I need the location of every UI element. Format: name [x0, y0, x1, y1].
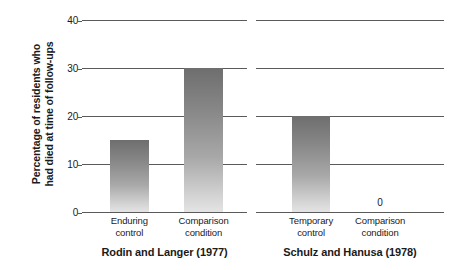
panel-title-schulz-hanusa: Schulz and Hanusa (1978): [256, 246, 444, 258]
category-labels-schulz-hanusa: Temporary control Comparison condition: [256, 215, 444, 245]
y-tick-label-20: 20: [67, 111, 78, 122]
category-label-line-2: control: [297, 227, 325, 238]
bar-value-label-comparison-condition-right: 0: [377, 197, 383, 208]
bars-rodin-langer: [82, 20, 247, 212]
category-label-line-1: Temporary: [289, 215, 333, 226]
gridline-baseline-0: [82, 212, 247, 213]
category-label-enduring-control: Enduring control: [111, 215, 148, 239]
category-label-line-2: control: [115, 227, 143, 238]
y-tick-label-40: 40: [67, 15, 78, 26]
panel-rodin-langer: [82, 20, 247, 212]
category-label-line-1: Enduring: [111, 215, 148, 226]
y-tick-label-10: 10: [67, 159, 78, 170]
category-label-line-1: Comparison: [355, 215, 405, 226]
category-labels-rodin-langer: Enduring control Comparison condition: [82, 215, 247, 245]
bar-comparison-condition-left[interactable]: [184, 68, 223, 212]
y-tick-mark-0: [77, 213, 82, 214]
bar-chart-figure: Percentage of residents who had died at …: [0, 0, 456, 270]
category-label-line-2: condition: [185, 227, 222, 238]
y-axis-title-line-1: Percentage of residents who: [30, 44, 43, 184]
y-axis-tick-labels: 40 30 20 10 0: [54, 20, 78, 212]
category-label-comparison-condition-left: Comparison condition: [178, 215, 228, 239]
category-label-comparison-condition-right: Comparison condition: [355, 215, 405, 239]
bar-temporary-control[interactable]: [292, 116, 331, 212]
panel-title-rodin-langer: Rodin and Langer (1977): [82, 246, 247, 258]
y-tick-label-30: 30: [67, 63, 78, 74]
y-tick-label-0: 0: [73, 207, 78, 218]
bars-schulz-hanusa: 0: [256, 20, 444, 212]
category-label-line-2: condition: [362, 227, 399, 238]
panel-schulz-hanusa: 0: [256, 20, 444, 212]
bar-enduring-control[interactable]: [110, 140, 149, 212]
gridline-baseline-0: [256, 212, 444, 213]
category-label-temporary-control: Temporary control: [289, 215, 333, 239]
category-label-line-1: Comparison: [178, 215, 228, 226]
